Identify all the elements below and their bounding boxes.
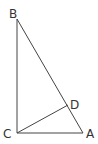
segment-ab [17, 19, 83, 133]
label-a: A [86, 127, 95, 141]
label-d: D [70, 98, 79, 112]
segment-cd [17, 105, 68, 133]
triangle-diagram: B D C A [0, 0, 98, 144]
label-c: C [3, 127, 11, 141]
label-b: B [9, 7, 17, 21]
